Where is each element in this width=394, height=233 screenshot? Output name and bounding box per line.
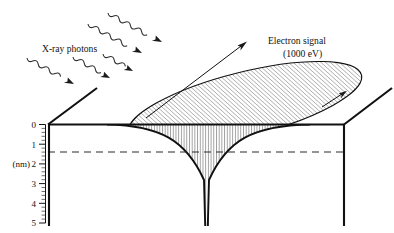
xray-arrowhead-4 — [100, 71, 111, 81]
axis-major-ticks — [39, 125, 46, 224]
axis-tick-label-1: 1 — [32, 140, 37, 150]
axis-tick-label-5: 5 — [32, 218, 37, 228]
electron-signal-label-line1: Electron signal — [268, 35, 326, 46]
xray-arrow-1 — [107, 11, 163, 45]
xray-arrow-3 — [102, 52, 134, 74]
electron-arrowhead-main — [237, 39, 249, 50]
axis-tick-label-2: 2 — [32, 159, 37, 169]
axis-tick-label-0: 0 — [32, 120, 37, 130]
electron-escape-region — [121, 44, 369, 164]
excitation-funnel-region — [107, 125, 310, 227]
xps-depth-diagram: 0 1 2 3 4 5 (nm) — [0, 0, 394, 233]
electron-signal-label-line2: (1000 eV) — [283, 48, 322, 60]
block-left-receding-edge — [48, 88, 97, 125]
axis-unit-label: (nm) — [13, 159, 31, 169]
xray-photons-label: X-ray photons — [42, 43, 97, 54]
xray-arrowhead-2 — [132, 46, 143, 56]
xray-arrowhead-1 — [152, 35, 163, 45]
xray-arrowhead-5 — [64, 77, 75, 87]
diagram-canvas: 0 1 2 3 4 5 (nm) — [0, 0, 394, 233]
depth-axis: 0 1 2 3 4 5 (nm) — [13, 120, 46, 229]
axis-tick-label-4: 4 — [32, 199, 37, 209]
axis-tick-label-3: 3 — [32, 179, 37, 189]
xray-arrow-5 — [26, 56, 75, 87]
xray-arrow-4 — [72, 55, 111, 81]
axis-minor-ticks — [42, 128, 46, 219]
